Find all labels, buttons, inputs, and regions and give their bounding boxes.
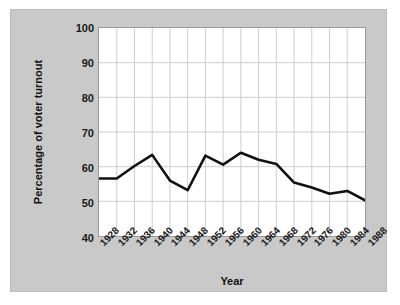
y-tick-40: 40 bbox=[82, 232, 94, 244]
y-tick-90: 90 bbox=[82, 57, 94, 69]
y-tick-60: 60 bbox=[82, 162, 94, 174]
gridlines bbox=[99, 28, 365, 236]
chart-figure: Percentage of voter turnout 100908070605… bbox=[10, 9, 387, 292]
y-axis-title: Percentage of voter turnout bbox=[28, 27, 48, 237]
y-axis-title-text: Percentage of voter turnout bbox=[32, 60, 44, 204]
y-tick-50: 50 bbox=[82, 197, 94, 209]
data-line-voter-turnout bbox=[99, 153, 365, 200]
plot-area: 100908070605040 192819321936194019441948… bbox=[98, 27, 366, 237]
y-tick-100: 100 bbox=[76, 22, 94, 34]
y-tick-70: 70 bbox=[82, 127, 94, 139]
y-tick-80: 80 bbox=[82, 92, 94, 104]
x-axis-title: Year bbox=[98, 275, 366, 287]
chart-canvas bbox=[99, 28, 365, 236]
x-tick-1988: 1988 bbox=[366, 225, 390, 249]
